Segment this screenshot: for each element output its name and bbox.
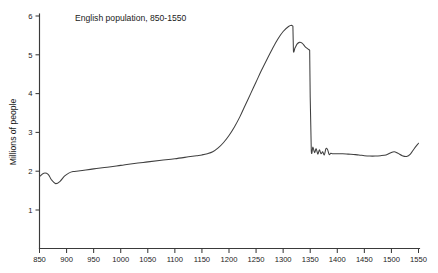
- x-tick-label: 1000: [112, 255, 129, 264]
- y-axis-title: Millions of people: [8, 99, 18, 166]
- x-tick-label: 1200: [221, 255, 238, 264]
- x-tick-label: 850: [33, 255, 46, 264]
- y-tick-label: 1: [28, 206, 32, 215]
- x-tick-label: 1250: [248, 255, 265, 264]
- x-tick-label: 1100: [167, 255, 183, 264]
- x-tick-label: 1350: [302, 255, 319, 264]
- x-tick-label: 1400: [329, 255, 346, 264]
- x-tick-label: 950: [87, 255, 100, 264]
- x-tick-label: 1300: [275, 255, 292, 264]
- y-axis-ticks: 123456: [28, 12, 39, 215]
- population-line-chart: Millions of people English population, 8…: [0, 0, 438, 273]
- y-tick-label: 6: [28, 12, 32, 21]
- series-group: [40, 25, 419, 183]
- x-tick-label: 1050: [139, 255, 156, 264]
- data-series-line: [40, 25, 419, 183]
- chart-figure: Millions of people English population, 8…: [0, 0, 438, 273]
- x-tick-label: 1450: [356, 255, 373, 264]
- x-tick-label: 1550: [410, 255, 427, 264]
- x-axis-ticks: 8509009501000105011001150120012501300135…: [33, 249, 427, 264]
- y-tick-label: 4: [28, 89, 32, 98]
- x-tick-label: 900: [60, 255, 73, 264]
- chart-title: English population, 850-1550: [75, 13, 187, 23]
- y-tick-label: 5: [28, 51, 32, 60]
- x-tick-label: 1500: [383, 255, 400, 264]
- x-tick-label: 1150: [194, 255, 210, 264]
- y-tick-label: 3: [28, 128, 32, 137]
- y-tick-label: 2: [28, 167, 32, 176]
